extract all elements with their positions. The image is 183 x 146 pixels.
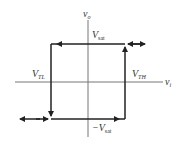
vsat-positive-label: Vsat (92, 29, 105, 41)
vth-label: VTH (132, 68, 146, 80)
vsat-negative-label: −Vsat (92, 122, 112, 134)
vtl-label: VTL (32, 68, 45, 80)
vo-axis-label: vo (83, 8, 90, 20)
hysteresis-diagram: vo vi Vsat −Vsat VTL VTH (0, 0, 183, 146)
vi-axis-label: vi (165, 76, 171, 88)
